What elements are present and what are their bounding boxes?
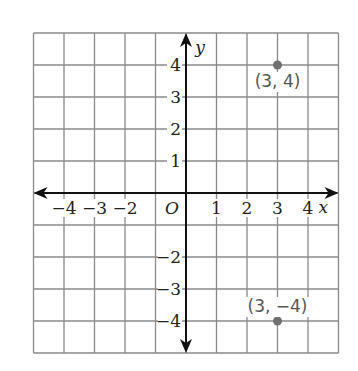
y-tick-label: 2 bbox=[170, 119, 181, 139]
point-label: (3, 4) bbox=[255, 71, 301, 91]
y-tick-label: 3 bbox=[170, 87, 181, 107]
x-tick-label: −4 bbox=[51, 198, 76, 218]
y-tick-label: −3 bbox=[156, 279, 181, 299]
x-tick-label: −3 bbox=[82, 198, 107, 218]
x-tick-label: 3 bbox=[272, 198, 283, 218]
y-tick-label: 1 bbox=[170, 151, 181, 171]
x-axis-label: x bbox=[318, 197, 328, 217]
coordinate-plane: −4−3−212344321−2−3−4Oxy (3, 4)(3, −4) bbox=[0, 0, 358, 371]
x-tick-label: −2 bbox=[112, 198, 137, 218]
x-tick-label: 2 bbox=[242, 198, 253, 218]
data-point bbox=[273, 317, 282, 326]
point-label: (3, −4) bbox=[248, 296, 308, 316]
x-tick-label: 1 bbox=[211, 198, 222, 218]
data-point bbox=[273, 61, 282, 70]
origin-label: O bbox=[165, 198, 179, 218]
x-tick-label: 4 bbox=[303, 198, 314, 218]
y-tick-label: −2 bbox=[156, 247, 181, 267]
y-tick-label: 4 bbox=[170, 55, 181, 75]
y-tick-label: −4 bbox=[156, 311, 181, 331]
y-axis-label: y bbox=[194, 37, 205, 57]
